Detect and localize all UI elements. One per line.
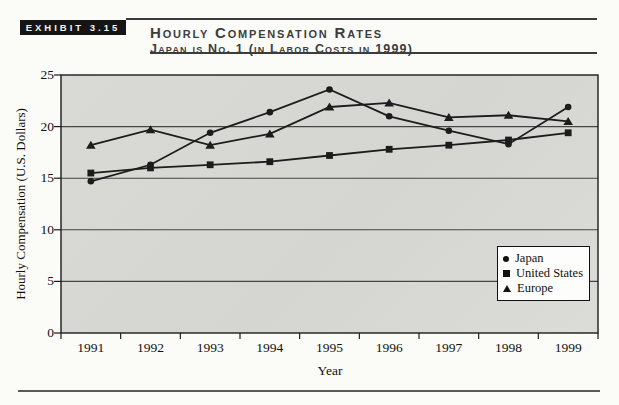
y-axis-title: Hourly Compensation (U.S. Dollars) [13, 108, 29, 300]
marker-circle-japan [386, 113, 393, 120]
marker-triangle-europe [265, 129, 275, 137]
marker-square-united-states [505, 137, 512, 144]
x-tick-label-1999: 1999 [538, 340, 598, 356]
x-tick-label-1995: 1995 [300, 340, 360, 356]
y-tick-label-0: 0 [24, 325, 54, 341]
y-tick-label-5: 5 [24, 273, 54, 289]
legend-item-japan: Japan [503, 251, 583, 266]
marker-circle-japan [267, 109, 274, 116]
x-tick-label-1993: 1993 [180, 340, 240, 356]
marker-circle-japan [326, 86, 333, 93]
x-axis-title: Year [300, 363, 360, 379]
marker-square-united-states [326, 152, 333, 159]
y-tick-label-25: 25 [24, 67, 54, 83]
legend-item-europe: Europe [503, 281, 583, 296]
y-tick-label-20: 20 [24, 119, 54, 135]
y-tick-label-15: 15 [24, 170, 54, 186]
marker-circle-japan [88, 178, 95, 185]
x-tick-label-1991: 1991 [61, 340, 121, 356]
marker-circle-japan [446, 127, 453, 134]
x-tick-label-1998: 1998 [479, 340, 539, 356]
marker-square-united-states [445, 142, 452, 149]
footer-rule [18, 390, 600, 392]
x-tick-label-1992: 1992 [121, 340, 181, 356]
marker-square-united-states [266, 158, 273, 165]
marker-circle-japan [207, 129, 214, 136]
x-tick-label-1997: 1997 [419, 340, 479, 356]
marker-square-united-states [386, 146, 393, 153]
marker-square-united-states [207, 161, 214, 168]
legend-label-japan: Japan [515, 251, 543, 266]
marker-square-united-states [147, 164, 154, 171]
legend-label-europe: Europe [517, 281, 553, 296]
marker-square-united-states [87, 170, 94, 177]
legend-item-united-states: United States [503, 266, 583, 281]
exhibit-page: EXHIBIT 3.15 Hourly Compensation Rates J… [0, 0, 619, 405]
square-marker-icon [503, 270, 510, 277]
y-tick-label-10: 10 [24, 222, 54, 238]
legend-label-united-states: United States [516, 266, 583, 281]
marker-square-united-states [565, 129, 572, 136]
marker-circle-japan [565, 104, 572, 111]
circle-marker-icon [503, 256, 509, 262]
x-tick-label-1996: 1996 [359, 340, 419, 356]
triangle-marker-icon [503, 285, 511, 292]
x-tick-label-1994: 1994 [240, 340, 300, 356]
legend: Japan United States Europe [497, 246, 590, 301]
